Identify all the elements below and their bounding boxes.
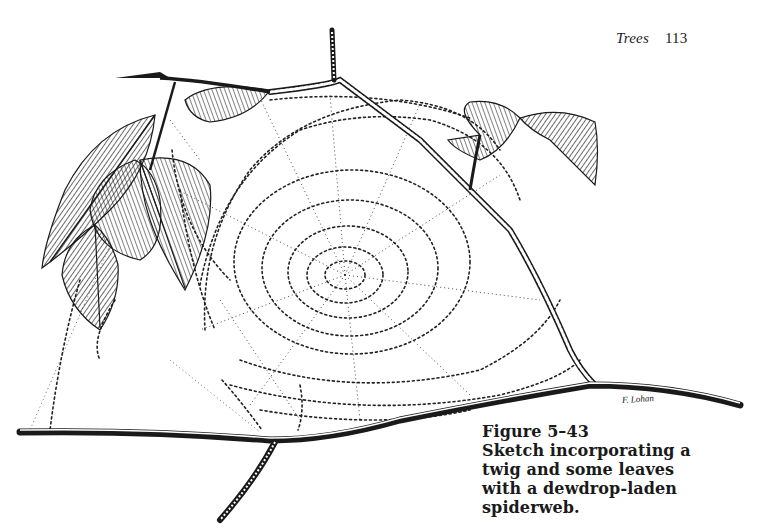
book-page: Trees 113 bbox=[0, 0, 760, 529]
figure-label: Figure 5–43 bbox=[482, 422, 742, 441]
caption-line: with a dewdrop-laden bbox=[482, 479, 742, 498]
figure-caption: Figure 5–43 Sketch incorporating a twig … bbox=[482, 422, 742, 517]
leaf-cluster-left bbox=[42, 87, 270, 330]
spiderweb bbox=[172, 97, 580, 420]
caption-line: twig and some leaves bbox=[482, 460, 742, 479]
leaf-pair-right bbox=[448, 101, 598, 185]
caption-line: Sketch incorporating a bbox=[482, 441, 742, 460]
caption-line: spiderweb. bbox=[482, 498, 742, 517]
